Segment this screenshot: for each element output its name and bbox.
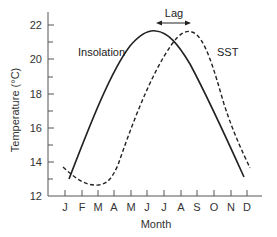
y-label-12: 12 — [30, 190, 42, 202]
arrow-left-icon — [156, 21, 162, 26]
x-ticks — [65, 190, 247, 196]
x-label-may: M — [126, 201, 135, 213]
y-label-16: 16 — [30, 122, 42, 134]
y-tick-labels: 12 14 16 18 20 22 — [30, 19, 42, 202]
x-label-sep: S — [193, 201, 200, 213]
x-label-jun: J — [144, 201, 150, 213]
y-label-14: 14 — [30, 156, 42, 168]
lag-arrow — [156, 21, 191, 26]
insolation-label: Insolation — [78, 46, 125, 58]
x-label-oct: O — [210, 201, 219, 213]
x-label-dec: D — [243, 201, 251, 213]
y-axis-title: Temperature (°C) — [9, 68, 21, 152]
x-label-apr: A — [110, 201, 118, 213]
x-axis-title: Month — [141, 218, 172, 230]
x-label-feb: F — [79, 201, 86, 213]
x-label-aug: A — [177, 201, 185, 213]
arrow-right-icon — [185, 21, 191, 26]
seasonal-lag-chart: 12 14 16 18 20 22 J F M A M J J A S O N … — [0, 0, 277, 237]
y-label-22: 22 — [30, 19, 42, 31]
x-label-mar: M — [93, 201, 102, 213]
y-label-20: 20 — [30, 53, 42, 65]
x-label-nov: N — [227, 201, 235, 213]
y-ticks — [48, 25, 54, 179]
sst-label: SST — [217, 46, 239, 58]
y-label-18: 18 — [30, 88, 42, 100]
lag-label: Lag — [165, 7, 183, 19]
x-label-jan: J — [62, 201, 68, 213]
x-label-jul: J — [161, 201, 167, 213]
x-tick-labels: J F M A M J J A S O N D — [62, 201, 251, 213]
